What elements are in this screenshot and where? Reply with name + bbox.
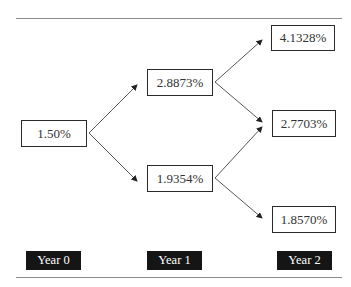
arrow-y1down-to-mid (215, 127, 262, 178)
node-year2-upup-rate: 4.1328% (271, 25, 335, 51)
year-1-label: Year 1 (147, 251, 202, 270)
arrow-y0-to-up (89, 85, 137, 133)
node-year2-downdown-rate: 1.8570% (272, 206, 336, 233)
arrow-y0-to-down (89, 133, 137, 181)
year-0-label: Year 0 (26, 251, 81, 270)
node-year1-up-rate: 2.8873% (147, 69, 213, 96)
arrow-y1down-to-bottom (215, 178, 262, 218)
node-year1-down-rate: 1.9354% (147, 165, 213, 192)
node-year0-rate: 1.50% (21, 120, 87, 147)
arrow-y1up-to-mid (215, 82, 262, 122)
year-2-label: Year 2 (277, 251, 332, 270)
arrow-y1up-to-top (215, 40, 262, 82)
node-year2-updown-rate: 2.7703% (272, 110, 336, 137)
